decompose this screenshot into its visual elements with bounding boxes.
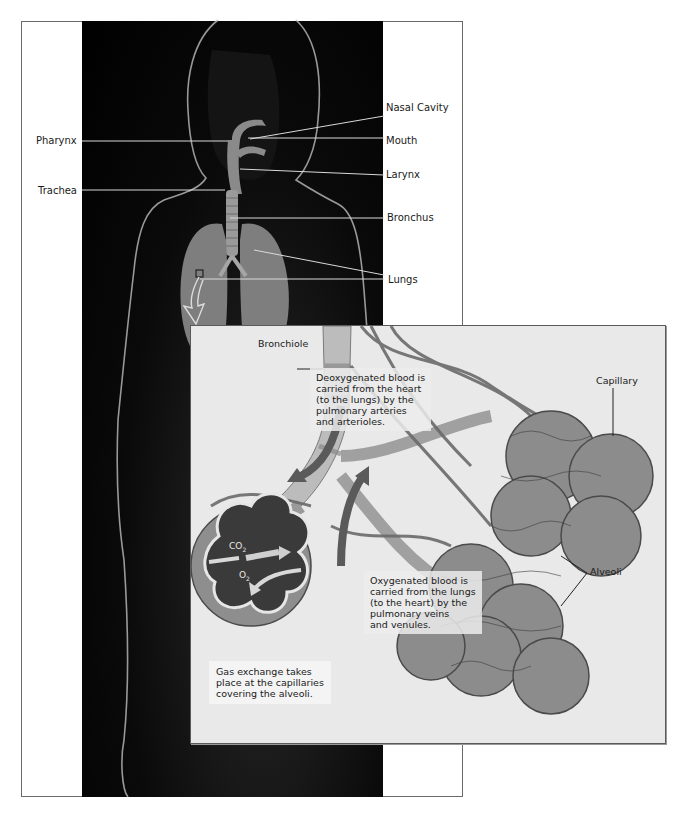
- note-line: pulmonary arteries: [316, 405, 425, 416]
- label-nasal-cavity: Nasal Cavity: [386, 102, 449, 114]
- label-mouth: Mouth: [386, 135, 417, 147]
- label-pharynx: Pharynx: [36, 135, 77, 147]
- label-alveoli: Alveoli: [590, 566, 622, 577]
- label-trachea: Trachea: [38, 185, 77, 197]
- note-line: Oxygenated blood is: [370, 575, 476, 586]
- note-line: carried from the lungs: [370, 586, 476, 597]
- note-line: place at the capillaries: [216, 677, 324, 688]
- note-oxygenated-blood: Oxygenated blood is carried from the lun…: [364, 571, 482, 634]
- note-line: and arterioles.: [316, 416, 425, 427]
- note-line: (to the heart) by the: [370, 597, 476, 608]
- label-capillary: Capillary: [596, 375, 638, 386]
- note-gas-exchange: Gas exchange takes place at the capillar…: [209, 661, 331, 704]
- co2-subscript: 2: [242, 546, 246, 553]
- label-co2: CO2: [229, 541, 246, 555]
- note-line: carried from the heart: [316, 383, 425, 394]
- note-deoxygenated-blood: Deoxygenated blood is carried from the h…: [310, 368, 431, 431]
- label-bronchus: Bronchus: [387, 212, 434, 224]
- label-bronchiole: Bronchiole: [258, 338, 308, 349]
- note-line: (to the lungs) by the: [316, 394, 425, 405]
- label-lungs: Lungs: [388, 274, 418, 286]
- note-line: covering the alveoli.: [216, 688, 324, 699]
- note-line: and venules.: [370, 619, 476, 630]
- label-larynx: Larynx: [386, 169, 420, 181]
- o2-subscript: 2: [246, 575, 250, 582]
- note-line: pulmonary veins: [370, 608, 476, 619]
- co2-text: CO: [229, 541, 242, 551]
- label-o2: O2: [239, 570, 250, 584]
- note-line: Gas exchange takes: [216, 666, 324, 677]
- note-line: Deoxygenated blood is: [316, 372, 425, 383]
- alveoli-inset-panel: Bronchiole Capillary Alveoli CO2 O2 Deox…: [190, 325, 666, 744]
